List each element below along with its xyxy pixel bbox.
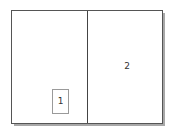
layout-frame: 2 1 [11, 10, 163, 124]
region-1-label: 1 [53, 95, 68, 107]
region-2-label: 2 [123, 60, 131, 72]
region-1-box: 1 [52, 89, 69, 114]
